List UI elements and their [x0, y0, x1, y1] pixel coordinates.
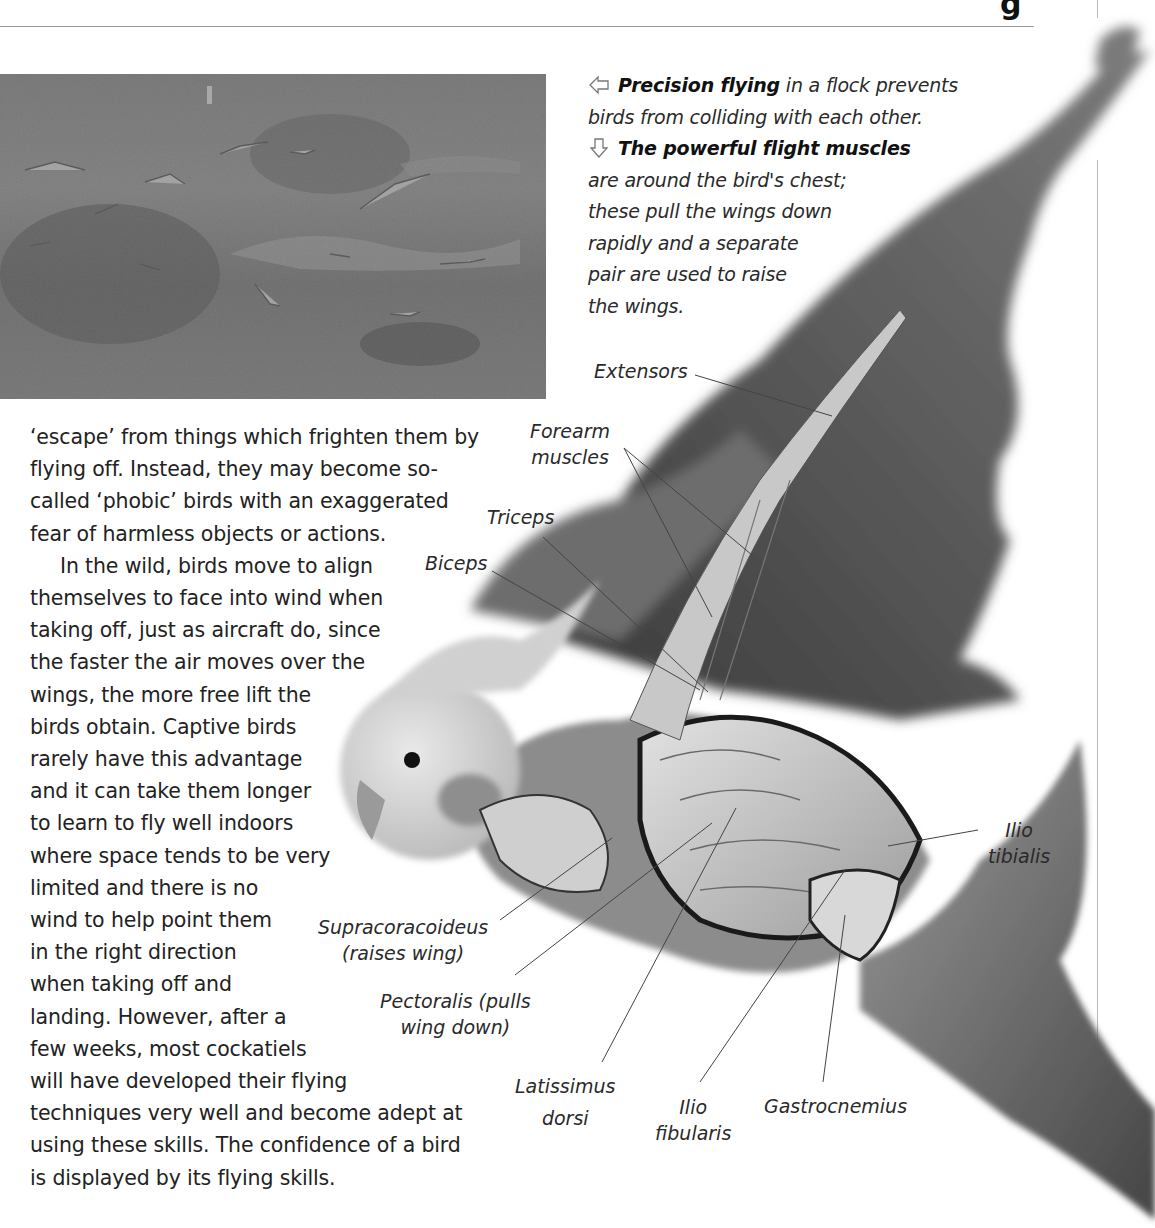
- caption-text: pair are used to raise: [588, 259, 958, 291]
- caption-text: birds from colliding with each other.: [588, 102, 958, 134]
- body-line: techniques very well and become adept at: [30, 1097, 479, 1129]
- caption-text: are around the bird's chest;: [588, 165, 958, 197]
- body-line: using these skills. The confidence of a …: [30, 1129, 479, 1161]
- body-line: flying off. Instead, they may become so-: [30, 453, 479, 485]
- label-biceps: Biceps: [425, 550, 487, 576]
- arrow-left-outline-icon: [588, 75, 610, 95]
- body-line: and it can take them longer: [30, 775, 479, 807]
- caption-text: these pull the wings down: [588, 196, 958, 228]
- caption-item-precision: Precision flying in a flock prevents: [588, 70, 958, 102]
- label-ilio-tibialis: Ilio tibialis: [988, 817, 1050, 869]
- body-line: wings, the more free lift the: [30, 679, 479, 711]
- body-line: ‘escape’ from things which frighten them…: [30, 421, 479, 453]
- caption-text: in a flock prevents: [780, 74, 958, 96]
- leader-lines: [492, 375, 978, 1082]
- header-rule: [0, 26, 1034, 27]
- label-extensors: Extensors: [594, 358, 688, 384]
- body-line: limited and there is no: [30, 872, 479, 904]
- body-line: In the wild, birds move to align: [30, 550, 479, 582]
- margin-rule-top: [1097, 0, 1098, 18]
- figure-caption: Precision flying in a flock prevents bir…: [588, 70, 958, 322]
- label-forearm-muscles: Forearm muscles: [530, 418, 610, 470]
- body-line: will have developed their flying: [30, 1065, 479, 1097]
- body-line: birds obtain. Captive birds: [30, 711, 479, 743]
- caption-bold-precision: Precision flying: [618, 74, 780, 96]
- corner-letter: g: [1000, 0, 1021, 21]
- flock-photo: [0, 74, 546, 399]
- body-line: is displayed by its flying skills.: [30, 1162, 479, 1194]
- label-ilio-fibularis: Ilio fibularis: [655, 1094, 731, 1146]
- body-line: rarely have this advantage: [30, 743, 479, 775]
- label-pectoralis: Pectoralis (pulls wing down): [380, 988, 531, 1040]
- body-line: fear of harmless objects or actions.: [30, 518, 479, 550]
- body-line: themselves to face into wind when: [30, 582, 479, 614]
- body-line: to learn to fly well indoors: [30, 807, 479, 839]
- caption-text: rapidly and a separate: [588, 228, 958, 260]
- body-line: taking off, just as aircraft do, since: [30, 614, 479, 646]
- body-line: the faster the air moves over the: [30, 646, 479, 678]
- caption-item-muscles: The powerful flight muscles: [588, 133, 958, 165]
- caption-text: the wings.: [588, 291, 958, 323]
- margin-rule: [1097, 160, 1098, 1080]
- label-triceps: Triceps: [487, 504, 554, 530]
- body-line: called ‘phobic’ birds with an exaggerate…: [30, 485, 479, 517]
- body-line: where space tends to be very: [30, 840, 479, 872]
- caption-bold-muscles: The powerful flight muscles: [618, 137, 911, 159]
- arrow-down-outline-icon: [588, 138, 610, 158]
- label-latissimus-dorsi: Latissimus dorsi: [515, 1070, 615, 1134]
- label-supracoracoideus: Supracoracoideus (raises wing): [318, 914, 488, 966]
- label-gastrocnemius: Gastrocnemius: [764, 1093, 907, 1119]
- body-paragraphs: ‘escape’ from things which frighten them…: [30, 421, 479, 1194]
